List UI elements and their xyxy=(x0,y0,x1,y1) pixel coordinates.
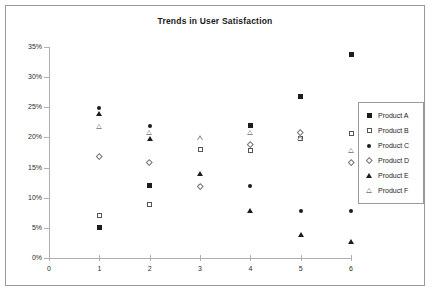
data-point xyxy=(248,184,252,188)
filled-triangle-icon xyxy=(364,171,374,181)
plot-area xyxy=(49,47,351,258)
data-point xyxy=(96,124,102,129)
chart-legend: Product AProduct BProduct CProduct DProd… xyxy=(358,102,424,204)
legend-label: Product D xyxy=(378,157,409,164)
legend-item-product-d[interactable]: Product D xyxy=(364,153,419,168)
data-point xyxy=(349,131,354,136)
data-point xyxy=(197,171,203,176)
data-point xyxy=(248,148,253,153)
data-point xyxy=(247,208,253,213)
x-axis-tick xyxy=(351,255,352,261)
y-axis-tick-label: 5% xyxy=(8,224,42,231)
data-point xyxy=(349,209,353,213)
y-axis-tick-label: 0% xyxy=(8,254,42,261)
legend-item-product-b[interactable]: Product B xyxy=(364,123,419,138)
data-point xyxy=(97,106,101,110)
legend-label: Product F xyxy=(378,187,408,194)
x-axis-tick-label: 3 xyxy=(190,265,210,272)
legend-item-product-e[interactable]: Product E xyxy=(364,168,419,183)
y-axis-tick-label: 25% xyxy=(8,103,42,110)
data-point xyxy=(348,239,354,244)
data-point xyxy=(96,111,102,116)
y-axis-tick-label: 20% xyxy=(8,133,42,140)
data-point xyxy=(348,160,354,166)
legend-item-product-a[interactable]: Product A xyxy=(364,108,419,123)
data-point xyxy=(146,159,152,165)
legend-label: Product E xyxy=(378,172,409,179)
data-point xyxy=(198,147,203,152)
data-point xyxy=(148,124,152,128)
x-axis-tick-label: 6 xyxy=(341,265,361,272)
data-point xyxy=(197,135,203,140)
legend-item-product-c[interactable]: Product C xyxy=(364,138,419,153)
x-axis-tick-label: 4 xyxy=(240,265,260,272)
open-square-icon xyxy=(364,126,374,136)
filled-square-icon xyxy=(364,111,374,121)
y-axis-tick-label: 30% xyxy=(8,73,42,80)
data-point xyxy=(248,123,253,128)
x-axis-tick-label: 1 xyxy=(89,265,109,272)
data-point xyxy=(147,183,152,188)
data-point xyxy=(146,130,152,135)
chart-frame: Trends in User Satisfaction 0%5%10%15%20… xyxy=(5,5,425,286)
data-point xyxy=(147,202,152,207)
data-point xyxy=(197,183,203,189)
data-point xyxy=(97,213,102,218)
data-point xyxy=(96,153,102,159)
x-axis-tick-label: 5 xyxy=(291,265,311,272)
y-axis-tick-label: 15% xyxy=(8,164,42,171)
data-point xyxy=(299,209,303,213)
legend-label: Product B xyxy=(378,127,409,134)
data-point xyxy=(349,52,354,57)
data-point xyxy=(97,225,102,230)
data-point xyxy=(147,136,153,141)
legend-label: Product C xyxy=(378,142,409,149)
legend-label: Product A xyxy=(378,112,408,119)
legend-item-product-f[interactable]: Product F xyxy=(364,183,419,198)
data-point xyxy=(247,141,253,147)
filled-circle-icon xyxy=(364,141,374,151)
data-point xyxy=(298,94,303,99)
data-point xyxy=(297,135,303,140)
x-axis-tick-label: 2 xyxy=(140,265,160,272)
y-axis-tick-label: 10% xyxy=(8,194,42,201)
open-diamond-icon xyxy=(364,156,374,166)
chart-title: Trends in User Satisfaction xyxy=(6,16,424,26)
data-point xyxy=(298,232,304,237)
x-axis-tick-label: 0 xyxy=(39,265,59,272)
data-point xyxy=(247,130,253,135)
y-axis-tick-label: 35% xyxy=(8,43,42,50)
data-point xyxy=(348,148,354,153)
open-triangle-icon xyxy=(364,186,374,196)
